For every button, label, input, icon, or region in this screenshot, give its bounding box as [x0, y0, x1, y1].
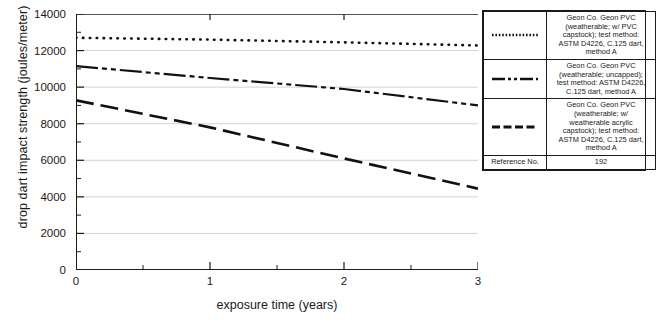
legend-desc-1: Geon Co. Geon PVC (weatherable; w/ PVC c…: [547, 12, 656, 60]
x-tick-2: 2: [341, 275, 347, 287]
x-tick-1: 1: [207, 275, 213, 287]
series-dashed-acrylic-capstock: [76, 100, 478, 188]
series-dotted-pvc-capstock: [76, 38, 478, 46]
x-ticks: [76, 262, 478, 270]
legend-row-2: Geon Co. Geon PVC (weatherable; uncapped…: [484, 59, 656, 98]
legend-swatch-cell-3: [484, 99, 547, 156]
legend-line: method A: [585, 47, 616, 56]
dash-dot-dot-line-swatch: [489, 73, 541, 85]
x-top-ticks: [210, 14, 344, 20]
dotted-line-swatch: [489, 29, 541, 41]
plot-svg: [76, 14, 478, 270]
legend-reference-row: Reference No. 192: [484, 155, 656, 169]
reference-no-value: 192: [547, 155, 656, 169]
series-dashdotdot-uncapped: [76, 66, 478, 105]
legend-table: Geon Co. Geon PVC (weatherable; w/ PVC c…: [482, 10, 646, 171]
legend-line: method A: [585, 143, 616, 152]
legend-desc-3: Geon Co. Geon PVC (weatherable; w/ weath…: [547, 99, 656, 156]
plot-area: [76, 14, 478, 270]
plot-block: drop dart impact strength (joules/meter)…: [0, 0, 468, 325]
legend-swatch-cell-2: [484, 59, 547, 98]
x-tick-0: 0: [73, 275, 79, 287]
dashed-line-swatch: [489, 121, 541, 133]
legend-swatch-cell-1: [484, 12, 547, 60]
legend-row-3: Geon Co. Geon PVC (weatherable; w/ weath…: [484, 99, 656, 156]
x-tick-3: 3: [475, 275, 481, 287]
legend-row-1: Geon Co. Geon PVC (weatherable; w/ PVC c…: [484, 12, 656, 60]
x-axis-label: exposure time (years): [76, 298, 478, 312]
reference-no-label: Reference No.: [484, 155, 547, 169]
legend-line: C.125 dart, method A: [566, 87, 636, 96]
legend-desc-2: Geon Co. Geon PVC (weatherable; uncapped…: [547, 59, 656, 98]
